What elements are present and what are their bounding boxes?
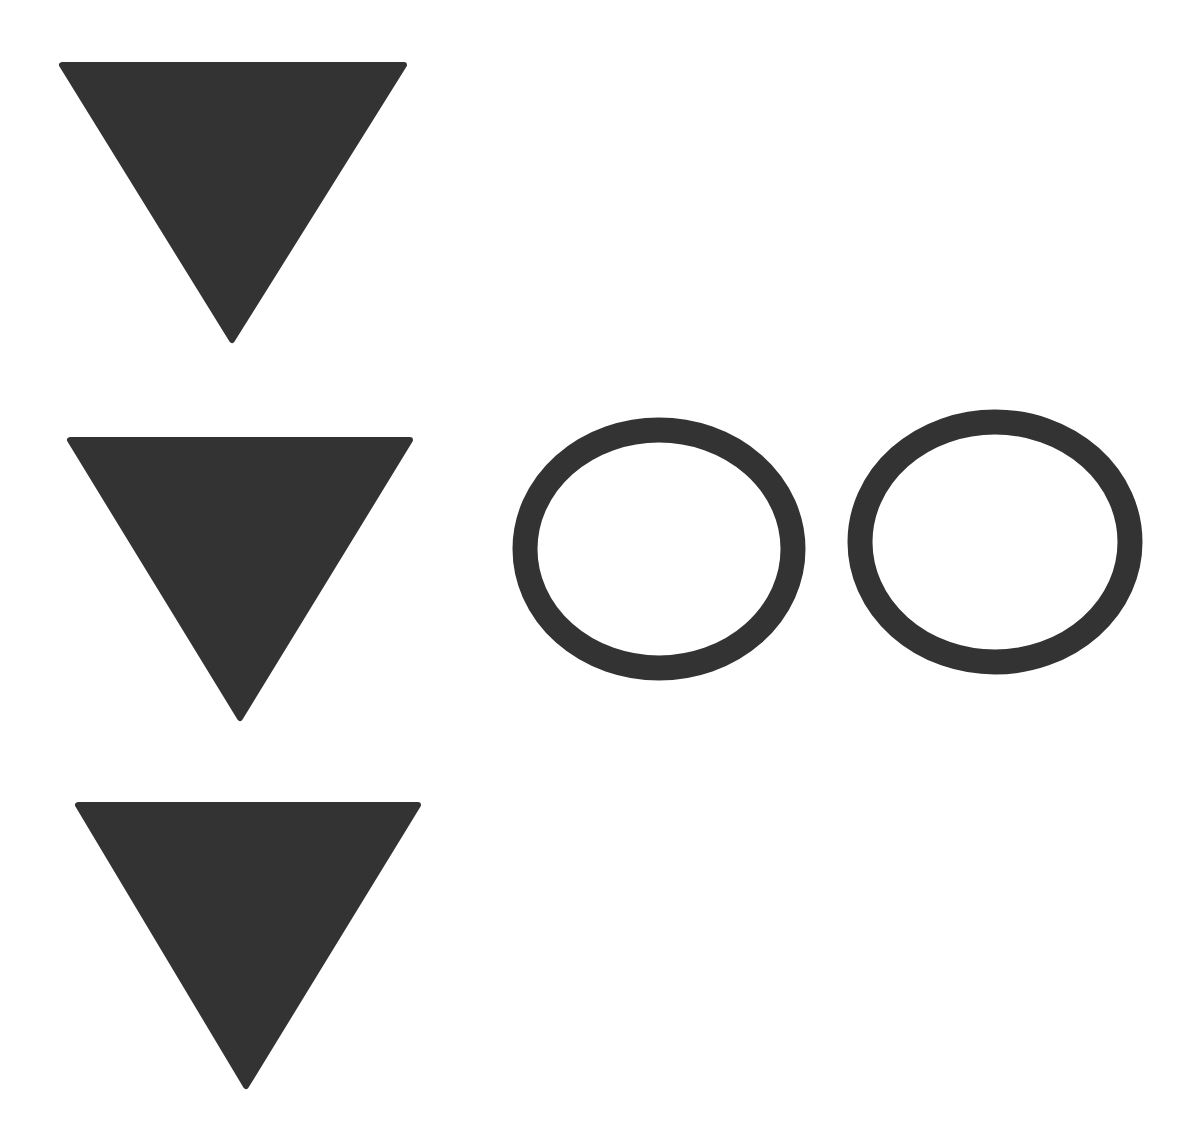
inverted-triangle-icon [78, 805, 418, 1086]
inverted-triangle-icon [70, 440, 410, 718]
shapes-canvas [0, 0, 1198, 1134]
inverted-triangle-icon [62, 65, 404, 340]
triangle-column [62, 65, 418, 1086]
ring-row [525, 422, 1130, 668]
ring-icon [525, 430, 793, 668]
ring-icon [860, 422, 1130, 662]
